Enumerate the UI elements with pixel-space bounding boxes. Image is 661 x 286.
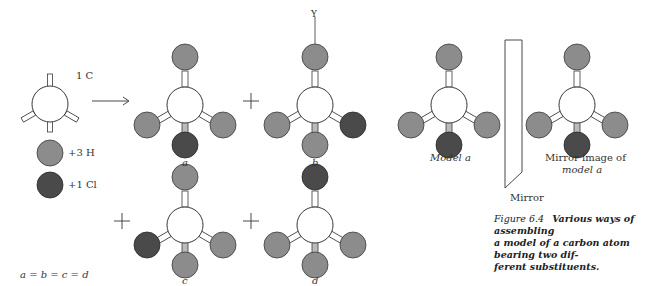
carbon-label: 1 C xyxy=(76,70,93,81)
molecule-model-a-original xyxy=(398,44,500,158)
figure-caption: Figure 6.4Various ways of assembling a m… xyxy=(494,213,661,273)
mirror-plane xyxy=(505,40,522,188)
caption-line-3: ferent substituents. xyxy=(494,261,599,272)
carbon-atom-legend xyxy=(21,74,79,132)
model-a-label: a xyxy=(182,157,188,168)
chlorine-label: +1 Cl xyxy=(68,179,97,190)
plus-icon xyxy=(243,93,259,109)
hydrogen-atom-legend xyxy=(37,140,63,166)
hydrogen-label: +3 H xyxy=(68,147,95,158)
molecule-model-b xyxy=(264,17,366,158)
model-a-caption: Model a xyxy=(430,152,471,163)
plus-icon xyxy=(243,213,259,229)
arrow-icon xyxy=(92,97,129,105)
molecule-model-c xyxy=(134,164,236,278)
figure-number: Figure 6.4 xyxy=(494,213,544,224)
plus-icon xyxy=(114,213,130,229)
mirror-image-caption-line2: model a xyxy=(562,164,602,175)
mirror-label: Mirror xyxy=(510,192,544,203)
molecule-model-a xyxy=(134,44,236,158)
mirror-image-caption-line1: Mirror image of xyxy=(545,152,626,163)
model-d-label: d xyxy=(312,275,318,286)
caption-line-2: a model of a carbon atom bearing two dif… xyxy=(494,237,630,260)
molecule-model-a-mirror-image xyxy=(526,44,628,158)
axis-label-y: Y xyxy=(311,9,317,19)
model-b-label: b xyxy=(312,157,318,168)
equality-statement: a = b = c = d xyxy=(20,269,89,280)
model-c-label: c xyxy=(182,275,188,286)
molecule-model-d xyxy=(264,164,366,278)
chlorine-atom-legend xyxy=(37,172,63,198)
